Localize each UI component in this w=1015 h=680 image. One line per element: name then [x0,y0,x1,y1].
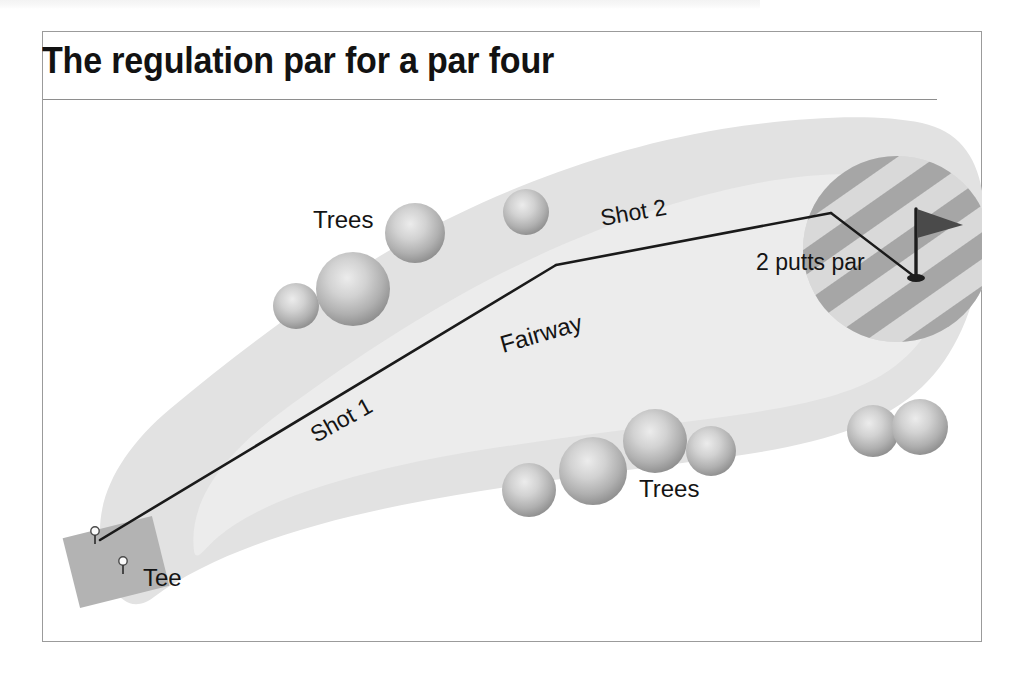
label-trees-bottom: Trees [639,475,699,502]
tree [623,409,687,473]
scan-artifact [0,0,760,9]
tree [847,405,899,457]
tree [316,252,390,326]
diagram-page: The regulation par for a par four [0,0,1015,680]
tree [503,189,549,235]
tree [385,203,445,263]
tree-cluster-right [847,399,948,457]
tree [892,399,948,455]
label-trees-top: Trees [313,206,373,233]
label-tee: Tee [143,564,182,591]
golf-hole-map: Trees Trees Fairway Tee Shot 1 Shot 2 2 … [42,31,982,642]
label-putts: 2 putts par [756,249,865,275]
tree [559,437,627,505]
tree [273,283,319,329]
tree [686,426,736,476]
tree [502,463,556,517]
